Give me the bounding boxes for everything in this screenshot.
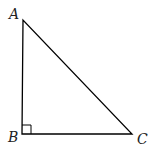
vertex-label-c: C <box>137 131 148 147</box>
vertex-label-a: A <box>7 6 19 22</box>
vertex-label-b: B <box>7 129 18 145</box>
triangle-diagram: A B C <box>0 0 152 150</box>
right-angle-marker <box>22 125 31 134</box>
triangle-abc <box>22 20 132 134</box>
